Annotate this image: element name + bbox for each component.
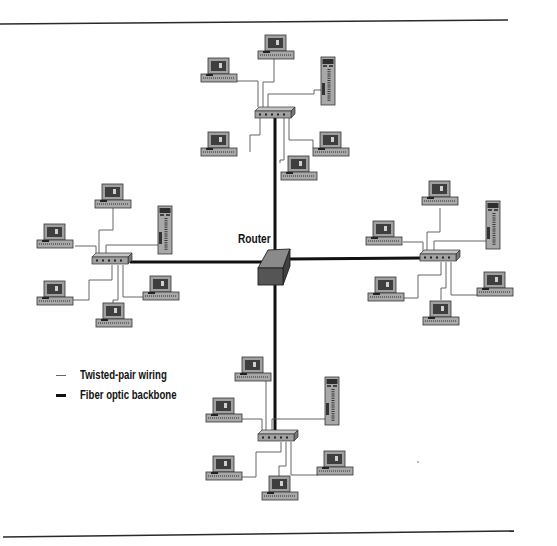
hub-icon [255,107,295,118]
hub-icon [92,253,132,264]
legend-label: Twisted-pair wiring [80,368,167,382]
router-icon [258,249,290,285]
server-icon [486,201,500,249]
workstation-icon [262,476,298,500]
server-icon [321,57,335,105]
bottom-rule [3,531,514,537]
workstation-icon [206,456,242,480]
workstation-icon [201,132,237,156]
workstation-icon [206,398,242,422]
workstation-icon [201,58,237,82]
workstation-icon [423,301,459,325]
hub-icon [258,430,298,441]
workstation-icon [143,276,179,300]
router-label: Router [238,231,271,246]
thin-line-swatch-icon [56,375,66,376]
hub-icon [420,250,460,261]
top-rule [0,20,508,24]
workstation-icon [37,281,73,305]
workstation-icon [96,303,132,327]
workstation-icon [422,181,458,205]
server-icon [325,377,339,425]
workstation-icon [477,272,513,296]
server-icon [158,206,172,254]
workstation-icon [258,35,294,59]
workstation-icon [37,224,73,248]
workstation-icon [366,221,402,245]
workstation-icon [281,156,317,180]
legend-label: Fiber optic backbone [80,388,177,402]
workstation-icon [95,184,131,208]
workstation-icon [313,132,349,156]
thick-line-swatch-icon [56,394,66,397]
legend-item-fiber: Fiber optic backbone [56,388,201,402]
network-diagram [0,0,557,546]
workstation-icon [235,357,271,381]
legend-item-twisted-pair: Twisted-pair wiring [56,368,188,382]
workstation-icon [368,277,404,301]
workstation-icon [317,451,353,475]
